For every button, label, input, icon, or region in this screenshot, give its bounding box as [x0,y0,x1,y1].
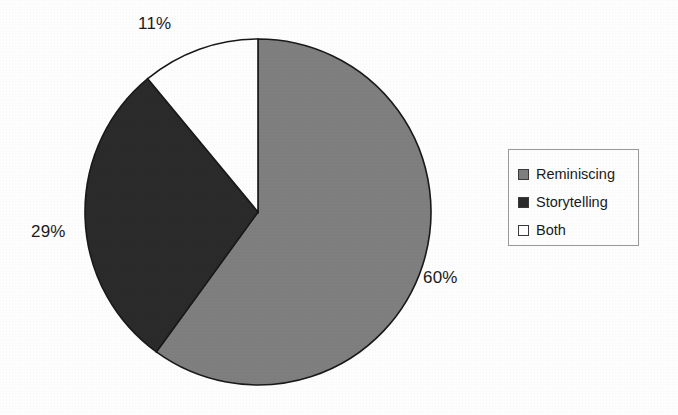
legend-label-both: Both [536,223,566,238]
pie-data-label-reminiscing: 60% [423,268,458,288]
legend-label-storytelling: Storytelling [536,195,608,210]
legend-label-reminiscing: Reminiscing [536,167,615,182]
legend-swatch-icon-reminiscing [518,169,529,180]
legend-swatch-icon-both [518,225,529,236]
legend-swatch-icon-storytelling [518,197,529,208]
pie-data-label-both: 11% [138,14,171,34]
pie-data-label-storytelling: 29% [31,222,66,242]
pie-chart: 11% 29% 60% Reminiscing Storytelling Bot… [0,0,678,415]
chart-legend: Reminiscing Storytelling Both [508,149,639,246]
legend-item-both[interactable]: Both [518,217,638,243]
legend-item-storytelling[interactable]: Storytelling [518,189,638,215]
legend-item-reminiscing[interactable]: Reminiscing [518,161,638,187]
